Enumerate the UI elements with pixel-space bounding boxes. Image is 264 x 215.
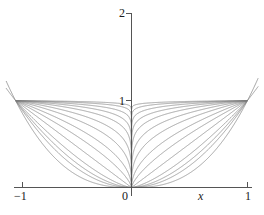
- plot-canvas: [0, 0, 264, 215]
- x-tick-label-origin: 0: [122, 190, 128, 202]
- x-axis-label: x: [198, 190, 203, 202]
- y-tick-label-two: 2: [119, 7, 125, 19]
- y-tick-label-one: 1: [119, 95, 125, 107]
- plot-figure: −1 0 1 x 1 2: [0, 0, 264, 215]
- x-tick-label-one: 1: [245, 190, 251, 202]
- x-tick-label-minus-one: −1: [14, 190, 27, 202]
- curve-group: [6, 79, 258, 188]
